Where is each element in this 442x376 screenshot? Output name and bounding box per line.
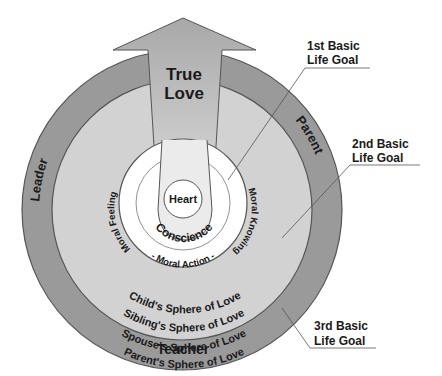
- heart-label: Heart: [169, 193, 197, 205]
- goal2-line1: 2nd Basic: [352, 137, 409, 151]
- life-goals-diagram: True Love Leader Parent Teacher Heart Co…: [0, 0, 442, 376]
- arrow-label-line2: Love: [164, 84, 204, 103]
- goal2-line2: Life Goal: [352, 151, 403, 165]
- goal3-line2: Life Goal: [314, 334, 365, 348]
- goal1-line1: 1st Basic: [307, 39, 360, 53]
- arrow-label-line1: True: [166, 65, 202, 84]
- goal3-line1: 3rd Basic: [314, 319, 368, 333]
- goal1-line2: Life Goal: [307, 53, 358, 67]
